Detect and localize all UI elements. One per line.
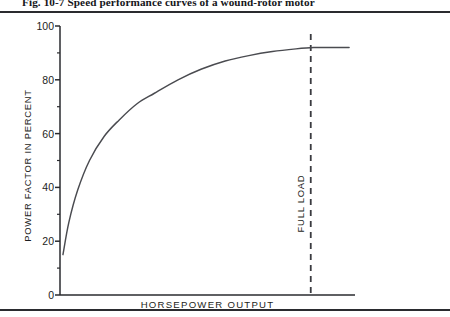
x-axis-title: HORSEPOWER OUTPUT bbox=[60, 299, 355, 310]
power-factor-curve bbox=[63, 47, 349, 254]
full-load-marker-label: FULL LOAD bbox=[295, 144, 306, 264]
y-tick-label-text: 100 bbox=[24, 20, 54, 32]
chart-svg bbox=[0, 0, 450, 317]
y-tick-label-text: 0 bbox=[24, 289, 54, 301]
y-tick-label: 0 bbox=[18, 289, 54, 301]
y-tick-label: 100 bbox=[18, 20, 54, 32]
y-axis-title: POWER FACTOR IN PERCENT bbox=[22, 76, 33, 256]
figure-page: Fig. 10-7 Speed performance curves of a … bbox=[0, 0, 450, 317]
chart-plot-area bbox=[0, 0, 450, 317]
